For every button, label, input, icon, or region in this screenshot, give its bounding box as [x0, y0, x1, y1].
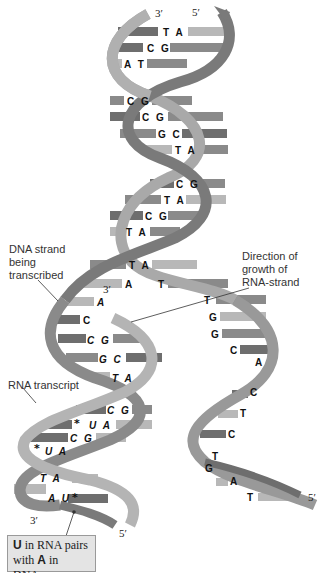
- base-pair: C G: [127, 97, 151, 107]
- base-pair: U A: [45, 447, 68, 457]
- uracil-pairing-callout: U in RNA pairs with A in DNA.: [7, 535, 96, 572]
- top-left-3prime-label: 3′: [155, 8, 163, 19]
- uracil-marker-icon: *: [72, 492, 78, 503]
- base: T: [204, 296, 212, 306]
- base-pair: C G: [142, 113, 166, 123]
- dna-strand-label: DNA strand being transcribed: [9, 243, 65, 282]
- base: T: [247, 493, 255, 503]
- base-pair: T A: [129, 261, 151, 271]
- base: G: [209, 313, 219, 323]
- base-pair: C G: [176, 180, 200, 190]
- base: T: [158, 280, 166, 290]
- base: A: [255, 358, 264, 368]
- base: C: [230, 346, 239, 356]
- rna-transcript-label: RNA transcript: [8, 379, 79, 392]
- base: G: [211, 330, 221, 340]
- base-pair: A T: [124, 60, 146, 70]
- dna-transcription-diagram: 3′ 5′ 3′ 3′ 5′ 5′ T A C G A T C G C G G …: [0, 0, 323, 573]
- base-pair: C G: [70, 434, 94, 444]
- base-pair: C G: [145, 212, 169, 222]
- uracil-marker-icon: *: [34, 443, 40, 454]
- uracil-marker-icon: *: [74, 418, 80, 429]
- base: C: [228, 430, 237, 440]
- callout-leader: [66, 512, 74, 536]
- bottom-mid-5prime-label: 5′: [119, 528, 127, 539]
- base: A: [230, 477, 239, 487]
- base: A: [125, 280, 134, 290]
- dna-strand-leader: [38, 280, 58, 301]
- rna-3prime-end-label: 3′: [103, 284, 111, 295]
- direction-of-growth-label: Direction of growth of RNA-strand: [242, 250, 299, 289]
- base: T: [240, 409, 248, 419]
- base-pair: G C: [99, 355, 123, 365]
- base-pair: A U: [48, 494, 71, 504]
- base: T: [212, 452, 220, 462]
- bottom-right-5prime-label: 5′: [308, 492, 316, 503]
- base: A: [97, 298, 106, 308]
- base: C: [250, 388, 259, 398]
- base-pair: T A: [175, 146, 197, 156]
- base-pair: T A: [126, 228, 148, 238]
- base-pair: T A: [164, 196, 186, 206]
- base-pair: C G: [87, 336, 111, 346]
- bottom-left-3prime-label: 3′: [30, 515, 38, 526]
- base-pair: G C: [158, 130, 182, 140]
- top-right-5prime-label: 5′: [192, 7, 200, 18]
- base-pair: C G: [147, 44, 171, 54]
- base-pair: T A: [112, 374, 134, 384]
- callout-pointer-dot: [72, 510, 76, 514]
- base-pair: C G: [107, 406, 131, 416]
- base: G: [205, 464, 215, 474]
- base-pair: U A: [89, 421, 112, 431]
- base-pair: T A: [163, 28, 185, 38]
- base-pair: T A: [40, 474, 62, 484]
- base: C: [83, 316, 92, 326]
